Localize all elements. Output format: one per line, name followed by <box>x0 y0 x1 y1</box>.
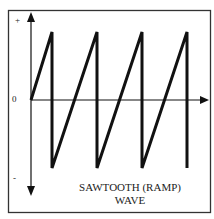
plus-label: + <box>15 15 20 25</box>
zero-label: 0 <box>12 94 17 104</box>
minus-label: - <box>13 173 16 183</box>
title-line-1: SAWTOOTH (RAMP) <box>60 181 200 194</box>
arrow-down-icon <box>27 186 35 196</box>
arrow-right-icon <box>200 96 209 104</box>
vertical-axis <box>27 12 35 196</box>
diagram-title: SAWTOOTH (RAMP) WAVE <box>60 181 200 207</box>
title-line-2: WAVE <box>60 194 200 207</box>
arrow-up-icon <box>27 12 35 22</box>
